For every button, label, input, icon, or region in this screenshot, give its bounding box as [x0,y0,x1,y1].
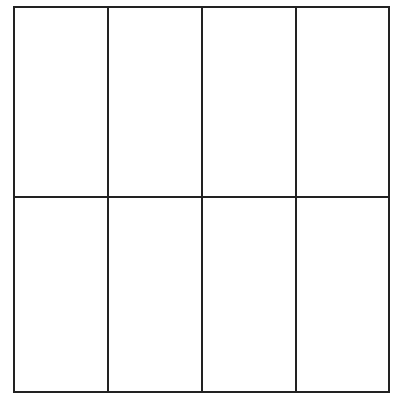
grid-cell-r1-c3 [202,7,296,197]
grid-cell-r2-c4 [296,197,389,392]
grid-diagram [0,0,403,402]
grid-cell-r1-c2 [108,7,202,197]
grid-cell-r1-c1 [14,7,108,197]
grid-cell-r1-c4 [296,7,389,197]
grid-cell-r2-c1 [14,197,108,392]
grid-cell-r2-c2 [108,197,202,392]
grid-cell-r2-c3 [202,197,296,392]
